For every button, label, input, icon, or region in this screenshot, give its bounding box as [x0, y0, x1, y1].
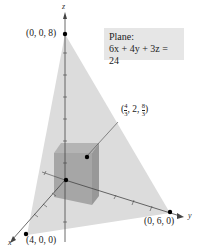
point-z-intercept	[63, 32, 67, 36]
box-side-face	[92, 143, 99, 205]
x-intercept-label: (4, 0, 0)	[26, 235, 56, 245]
corner-point-label: (43, 2, 83)	[121, 103, 148, 117]
legend-title: Plane:	[109, 31, 179, 43]
point-y-intercept	[168, 210, 172, 214]
x-axis-label: x	[8, 238, 12, 247]
point-origin	[64, 178, 68, 182]
z-intercept-label: (0, 0, 8)	[26, 28, 56, 38]
y-axis-arrow	[177, 213, 184, 219]
box-top-face	[54, 143, 99, 153]
y-axis-label: y	[188, 211, 192, 220]
y-intercept-label: (0, 6, 0)	[144, 216, 174, 226]
legend-equation: 6x + 4y + 3z = 24	[109, 43, 179, 67]
plane-legend: Plane: 6x + 4y + 3z = 24	[104, 28, 184, 60]
z-axis-arrow	[63, 12, 67, 19]
box-front-face	[54, 153, 92, 205]
point-corner	[85, 155, 89, 159]
z-axis-label: z	[62, 2, 65, 11]
